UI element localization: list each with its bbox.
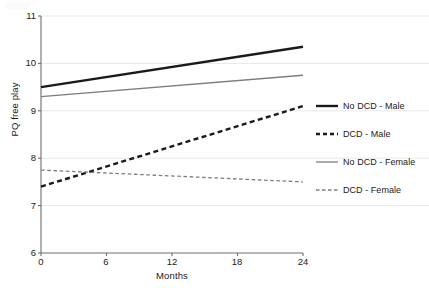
legend-item: No DCD - Female [316, 148, 429, 176]
x-axis-title: Months [41, 270, 303, 281]
x-tick-label: 12 [157, 257, 187, 267]
legend-label: DCD - Male [343, 129, 391, 139]
legend-line-icon [316, 128, 338, 140]
x-tick-label: 6 [91, 257, 121, 267]
x-tick-label: 24 [288, 257, 318, 267]
x-tick-label: 0 [26, 257, 56, 267]
series-line [41, 106, 303, 187]
series-line [41, 47, 303, 87]
legend-line-icon [316, 100, 338, 112]
legend-label: No DCD - Male [343, 101, 405, 111]
legend-item: No DCD - Male [316, 92, 429, 120]
series-line [41, 75, 303, 96]
y-tick-label: 7 [10, 201, 36, 211]
legend: No DCD - Male DCD - Male No DCD - Female… [316, 92, 429, 204]
legend-label: DCD - Female [343, 185, 401, 195]
series-line [41, 170, 303, 182]
y-tick-label: 11 [10, 11, 36, 21]
line-chart: 11 10 9 8 7 6 0 6 12 18 24 PQ free play … [0, 0, 429, 288]
x-tick-label: 18 [222, 257, 252, 267]
legend-item: DCD - Male [316, 120, 429, 148]
y-axis-title: PQ free play [9, 60, 20, 160]
legend-item: DCD - Female [316, 176, 429, 204]
legend-line-icon [316, 184, 338, 196]
legend-label: No DCD - Female [343, 157, 415, 167]
legend-line-icon [316, 156, 338, 168]
